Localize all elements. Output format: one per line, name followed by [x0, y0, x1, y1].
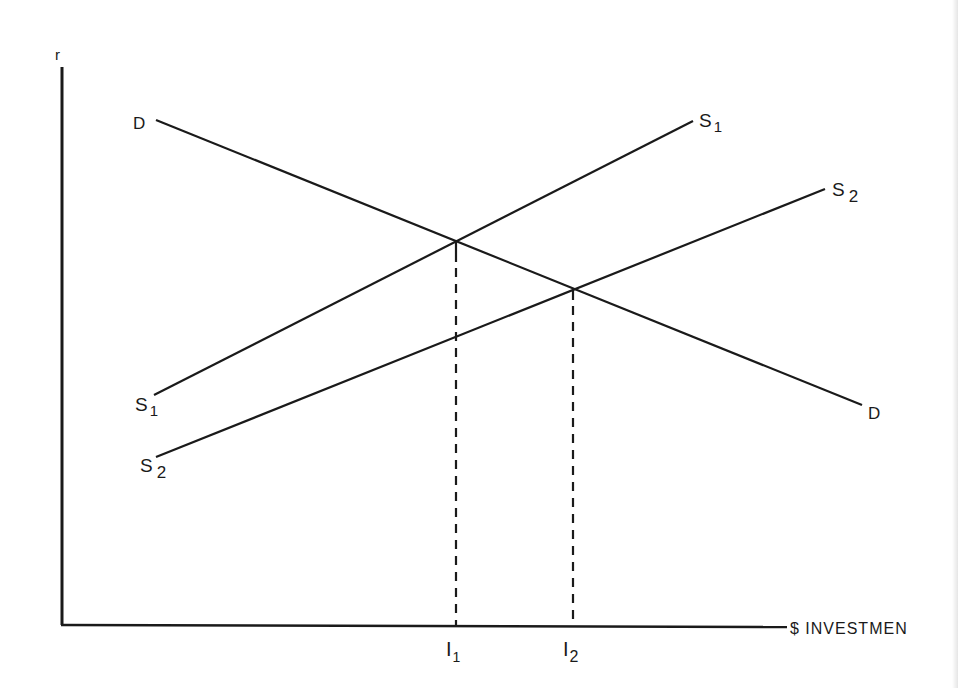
i1-tick-label: I1: [446, 638, 461, 665]
x-axis: [61, 625, 787, 627]
scan-edge-shadow: [952, 0, 958, 688]
demand-label-start: D: [133, 114, 145, 133]
s2-label-start: S2: [140, 455, 166, 482]
x-axis-label: $ INVESTMEN: [790, 620, 908, 637]
i2-tick-label: I2: [563, 638, 579, 665]
s1-label-start: S1: [135, 394, 158, 419]
s1-label-end: S1: [699, 110, 722, 135]
demand-curve: [156, 120, 862, 405]
y-axis-label: r: [55, 46, 60, 63]
s2-label-end: S2: [832, 179, 858, 206]
supply-curve-s1: [154, 121, 693, 395]
supply-demand-chart: r D D S1 S1 S2 S2 I1 I2 $ INVESTMEN: [0, 0, 958, 688]
supply-curve-s2: [156, 189, 825, 457]
demand-label-end: D: [868, 404, 880, 423]
